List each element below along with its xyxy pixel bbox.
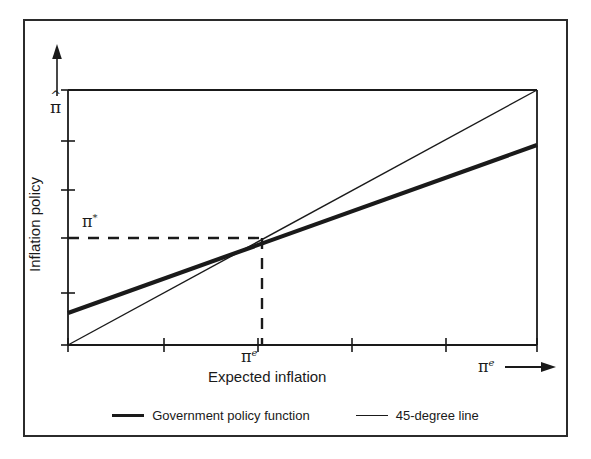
series-government-policy-function bbox=[68, 145, 537, 313]
pi-star-label: π* bbox=[82, 212, 98, 231]
figure-root: Inflation policy Expected inflation π ^ … bbox=[0, 0, 591, 459]
x-axis-arrow bbox=[505, 362, 556, 372]
chart-legend: Government policy function 45-degree lin… bbox=[0, 408, 591, 423]
pi-star-superscript: * bbox=[93, 212, 98, 223]
legend-swatch-thick-line-icon bbox=[112, 414, 144, 417]
x-axis-title: Expected inflation bbox=[208, 368, 326, 385]
legend-entry-government-policy-function: Government policy function bbox=[112, 408, 310, 423]
series-45-degree-line bbox=[68, 90, 537, 345]
legend-entry-45-degree-line: 45-degree line bbox=[356, 408, 479, 423]
legend-label-government-policy-function: Government policy function bbox=[152, 408, 310, 423]
pi-e-axis-base: π bbox=[478, 357, 489, 376]
legend-swatch-thin-line-icon bbox=[356, 415, 388, 416]
pi-e-tick-label: πe bbox=[241, 347, 257, 366]
pi-e-tick-base: π bbox=[241, 347, 252, 366]
y-axis-title: Inflation policy bbox=[26, 150, 43, 300]
pi-e-axis-superscript: e bbox=[489, 357, 495, 368]
pi-hat-axis-symbol: π ^ bbox=[50, 97, 61, 117]
pi-e-axis-symbol: πe bbox=[478, 357, 494, 376]
pi-e-tick-superscript: e bbox=[252, 347, 258, 358]
pi-hat-accent: ^ bbox=[50, 88, 61, 103]
legend-label-45-degree-line: 45-degree line bbox=[396, 408, 479, 423]
pi-star-base: π bbox=[82, 212, 93, 231]
